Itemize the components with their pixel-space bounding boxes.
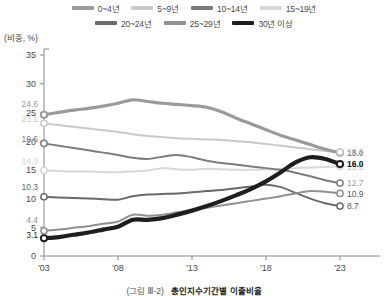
x-axis-tick-label: '18	[260, 263, 272, 273]
x-axis-tick-label: '13	[186, 263, 198, 273]
series-line-15~19년	[44, 166, 340, 172]
series-line-0~4년	[44, 100, 340, 153]
series-end-marker-25~29년	[337, 190, 343, 196]
end-value-label-5~9년: 18.1	[347, 147, 364, 157]
series-end-marker-30년 이상	[337, 161, 343, 167]
end-value-label-30년 이상: 16.0	[347, 159, 364, 169]
series-end-marker-20~24년	[337, 203, 343, 209]
start-value-label-10~14년: 19.6	[21, 134, 38, 144]
start-value-label-30년 이상: 3.1	[26, 230, 38, 240]
end-value-label-20~24년: 8.7	[347, 201, 359, 211]
series-start-marker-30년 이상	[41, 235, 47, 241]
x-axis-tick-label: '23	[334, 263, 346, 273]
y-axis-tick-label: 0	[31, 251, 36, 261]
series-start-marker-25~29년	[41, 228, 47, 234]
caption-title: 총인지수기간별 이출비율	[171, 286, 261, 296]
y-axis-tick-label: 15	[26, 165, 36, 175]
x-axis-tick-label: '03	[38, 263, 50, 273]
figure-caption: (그림 Ⅲ-2) 총인지수기간별 이출비율	[0, 284, 388, 296]
y-axis-tick-label: 10	[26, 194, 36, 204]
series-start-marker-5~9년	[41, 120, 47, 126]
y-axis-tick-label: 35	[26, 50, 36, 60]
x-axis-tick-label: '08	[112, 263, 124, 273]
start-value-label-0~4년: 24.6	[21, 99, 38, 109]
series-line-20~24년	[44, 185, 340, 206]
start-value-label-20~24년: 10.3	[21, 182, 38, 192]
series-end-marker-5~9년	[337, 149, 343, 155]
start-value-label-15~19년: 14.9	[21, 156, 38, 166]
series-start-marker-10~14년	[41, 140, 47, 146]
series-start-marker-15~19년	[41, 167, 47, 173]
caption-number: (그림 Ⅲ-2)	[126, 286, 163, 296]
start-value-label-25~29년: 4.4	[26, 215, 38, 225]
y-axis-tick-label: 30	[26, 79, 36, 89]
series-line-5~9년	[44, 123, 340, 152]
start-value-label-5~9년: 23.1	[21, 114, 38, 124]
end-value-label-10~14년: 12.7	[347, 178, 364, 188]
series-start-marker-0~4년	[41, 112, 47, 118]
series-end-marker-10~14년	[337, 180, 343, 186]
end-value-label-25~29년: 10.9	[347, 189, 364, 199]
series-start-marker-20~24년	[41, 194, 47, 200]
